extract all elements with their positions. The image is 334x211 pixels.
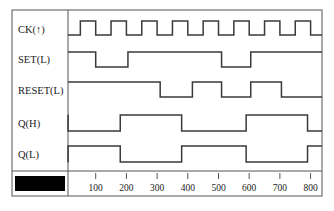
diagram-frame [12, 10, 322, 196]
timing-diagram: CK(↑) SET(L) RESET(L) Q(H) Q(L) 10020030… [0, 0, 334, 211]
axis-tick-label: 800 [303, 183, 318, 193]
signal-label-reset: RESET(L) [18, 85, 64, 97]
axis-tick-label: 600 [242, 183, 257, 193]
axis-tick-label: 500 [211, 183, 226, 193]
axis-tick-label: 300 [150, 183, 165, 193]
axis-tick-label: 200 [119, 183, 134, 193]
axis-tick-label: 100 [89, 183, 104, 193]
axis-tick-label: 400 [181, 183, 196, 193]
signal-label-set: SET(L) [18, 54, 51, 66]
redacted-block [15, 176, 65, 191]
signal-label-ck: CK(↑) [18, 24, 45, 36]
signal-label-ql: Q(L) [18, 149, 39, 161]
signal-label-qh: Q(H) [18, 118, 41, 130]
axis-tick-label: 700 [273, 183, 288, 193]
